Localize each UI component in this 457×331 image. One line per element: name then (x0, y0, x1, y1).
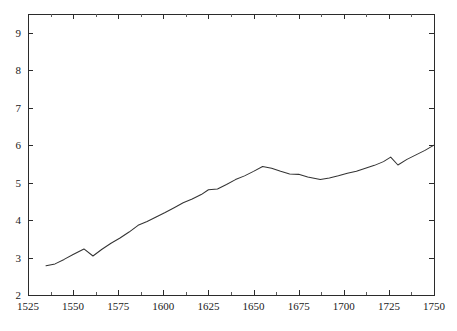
x-tick-label-1750: 1750 (423, 300, 446, 312)
x-tick-label-1725: 1725 (378, 300, 401, 312)
x-tick-label-1550: 1550 (62, 300, 85, 312)
y-tick-label-7: 7 (16, 102, 22, 114)
data-line-series-1 (46, 145, 434, 266)
x-tick-label-1675: 1675 (288, 300, 311, 312)
y-tick-label-8: 8 (16, 64, 22, 76)
y-tick-label-9: 9 (16, 27, 22, 39)
y-tick-label-5: 5 (16, 177, 22, 189)
x-tick-label-1700: 1700 (333, 300, 356, 312)
x-tick-label-1600: 1600 (152, 300, 175, 312)
x-tick-label-1625: 1625 (197, 300, 220, 312)
y-tick-label-4: 4 (16, 214, 22, 226)
x-axis-tick-labels: 1525155015751600162516501675170017251750 (17, 300, 446, 312)
y-axis-tick-labels: 23456789 (16, 27, 22, 301)
line-chart-canvas: 1525155015751600162516501675170017251750… (0, 0, 457, 331)
y-tick-label-3: 3 (16, 252, 22, 264)
y-tick-label-6: 6 (16, 139, 22, 151)
x-tick-label-1650: 1650 (243, 300, 266, 312)
y-axis-ticks (28, 34, 434, 296)
data-series-group (46, 145, 434, 266)
x-tick-label-1525: 1525 (17, 300, 40, 312)
chart-figure: 1525155015751600162516501675170017251750… (0, 0, 457, 331)
x-tick-label-1575: 1575 (107, 300, 130, 312)
y-tick-label-2: 2 (16, 289, 22, 301)
